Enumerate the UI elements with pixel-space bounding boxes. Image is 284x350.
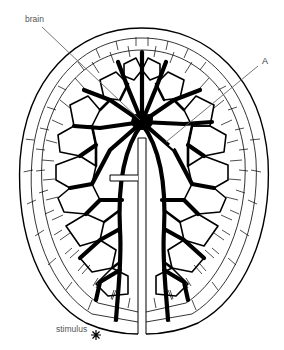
nerve-net-drawing — [0, 0, 284, 350]
stimulus-asterisk-icon — [91, 330, 101, 340]
stimulus-label: stimulus — [56, 325, 87, 334]
a-label: A — [262, 57, 268, 66]
brain-label: brain — [25, 15, 44, 24]
brain-ganglion — [131, 114, 153, 130]
brain-leader-line — [42, 27, 140, 120]
nerve-net-diagram: brain A stimulus — [0, 0, 284, 350]
